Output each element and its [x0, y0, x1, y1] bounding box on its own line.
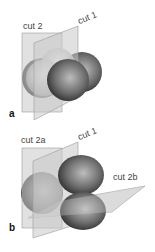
- panel-a: cut 2 cut 1 a: [0, 0, 155, 126]
- cut-label: cut 2a: [21, 135, 46, 145]
- cut-label: cut 2: [23, 21, 43, 31]
- panel-label: a: [9, 108, 15, 119]
- panel-label: b: [9, 222, 15, 233]
- cut-label: cut 2b: [113, 172, 138, 182]
- sphere-icon: [58, 155, 104, 195]
- sphere-icon: [47, 59, 89, 101]
- panel-b: cut 2a cut 1 cut 2b b: [0, 126, 155, 252]
